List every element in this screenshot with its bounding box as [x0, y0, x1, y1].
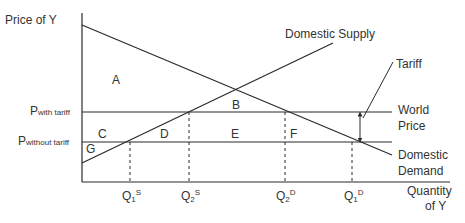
tariff-label: Tariff: [396, 57, 422, 71]
q1d-label: Q1D: [344, 186, 364, 207]
region-f-label: F: [290, 127, 297, 141]
p-with-tariff-label: Pwith tariff: [30, 104, 70, 120]
region-b-label: B: [232, 98, 240, 112]
region-a-label: A: [112, 73, 120, 87]
y-axis-label: Price of Y: [5, 13, 57, 27]
domestic-supply-label: Domestic Supply: [285, 27, 375, 41]
domestic-demand-label-line2: Demand: [398, 164, 443, 178]
tariff-leader-line: [363, 62, 393, 118]
world-price-label-line1: World: [398, 103, 429, 117]
world-price-label-line2: Price: [398, 119, 425, 133]
x-axis-label-line1: Quantity: [407, 184, 452, 198]
domestic-supply-curve: [82, 43, 333, 163]
q1s-label: Q1S: [122, 186, 141, 207]
domestic-demand-label-line1: Domestic: [398, 148, 448, 162]
q2s-label: Q2S: [181, 186, 200, 207]
region-g-label: G: [86, 142, 95, 156]
region-e-label: E: [231, 127, 239, 141]
q2d-label: Q2D: [276, 186, 296, 207]
x-axis-label-line2: of Y: [425, 199, 446, 213]
p-without-tariff-label: Pwithout tariff: [18, 134, 69, 150]
region-c-label: C: [98, 127, 107, 141]
region-d-label: D: [160, 127, 169, 141]
